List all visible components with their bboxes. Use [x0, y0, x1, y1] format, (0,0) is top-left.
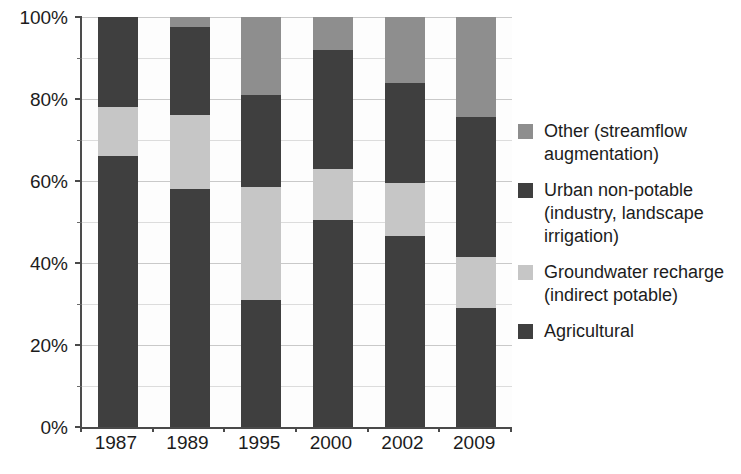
legend-swatch-icon	[518, 324, 533, 339]
bar-stack	[170, 17, 210, 427]
y-axis-tick-label: 100%	[19, 8, 68, 27]
bar-segment	[98, 17, 138, 107]
bar-stack	[98, 17, 138, 427]
bar-segment	[313, 50, 353, 169]
bar-stack	[241, 17, 281, 427]
bar-segment	[385, 83, 425, 183]
bar-segment	[313, 17, 353, 50]
bar-group-1987	[98, 17, 138, 427]
bar-segment	[456, 117, 496, 256]
bar-group-2009	[456, 17, 496, 427]
x-axis-tick-label: 2009	[453, 432, 495, 454]
legend-item-groundwater-recharge[interactable]: Groundwater recharge (indirect potable)	[518, 261, 738, 307]
bar-segment	[170, 115, 210, 189]
bar-segment	[241, 187, 281, 300]
bar-segment	[170, 189, 210, 427]
y-axis-tick-mark	[75, 16, 82, 18]
bar-segment	[385, 183, 425, 236]
y-axis-tick-label: 60%	[30, 172, 68, 191]
legend-item-other[interactable]: Other (streamflow augmentation)	[518, 120, 738, 166]
legend-item-urban-non-potable[interactable]: Urban non-potable (industry, landscape i…	[518, 179, 738, 248]
x-axis: 198719891995200020022009	[80, 432, 510, 462]
y-axis-tick-label: 0%	[41, 418, 68, 437]
bar-series-container	[82, 17, 512, 427]
plot-area	[80, 17, 512, 429]
legend-label: Agricultural	[544, 320, 634, 343]
x-axis-tick-label: 1987	[95, 432, 137, 454]
y-axis-tick-mark	[75, 180, 82, 182]
x-axis-tick-label: 2002	[381, 432, 423, 454]
y-axis: 0%20%40%60%80%100%	[0, 0, 76, 474]
bar-group-1995	[241, 17, 281, 427]
bar-segment	[170, 17, 210, 27]
y-axis-tick-mark	[75, 344, 82, 346]
legend-item-agricultural[interactable]: Agricultural	[518, 320, 738, 343]
bar-segment	[385, 236, 425, 427]
bar-segment	[385, 17, 425, 83]
x-axis-tick-label: 2000	[310, 432, 352, 454]
bar-segment	[456, 257, 496, 308]
y-axis-tick-mark	[75, 262, 82, 264]
bar-segment	[313, 169, 353, 220]
y-axis-ticks	[73, 17, 82, 427]
legend-swatch-icon	[518, 265, 533, 280]
bar-segment	[456, 17, 496, 117]
x-axis-tick-mark	[510, 427, 512, 432]
x-axis-tick-label: 1995	[238, 432, 280, 454]
x-axis-tick-label: 1989	[166, 432, 208, 454]
bar-segment	[241, 95, 281, 187]
bar-segment	[98, 156, 138, 427]
legend-label: Other (streamflow augmentation)	[544, 120, 687, 166]
bar-segment	[241, 17, 281, 95]
bar-group-1989	[170, 17, 210, 427]
y-axis-tick-mark	[75, 98, 82, 100]
legend-swatch-icon	[518, 183, 533, 198]
bar-segment	[313, 220, 353, 427]
bar-group-2002	[385, 17, 425, 427]
bar-group-2000	[313, 17, 353, 427]
legend-swatch-icon	[518, 124, 533, 139]
bar-segment	[98, 107, 138, 156]
bar-stack	[456, 17, 496, 427]
legend-label: Urban non-potable (industry, landscape i…	[544, 179, 704, 248]
y-axis-tick-label: 80%	[30, 90, 68, 109]
bar-segment	[170, 27, 210, 115]
bar-segment	[241, 300, 281, 427]
legend-label: Groundwater recharge (indirect potable)	[544, 261, 724, 307]
bar-segment	[456, 308, 496, 427]
stacked-bar-chart: 0%20%40%60%80%100% 198719891995200020022…	[0, 0, 741, 474]
chart-legend: Other (streamflow augmentation)Urban non…	[518, 120, 738, 356]
y-axis-tick-label: 40%	[30, 254, 68, 273]
bar-stack	[313, 17, 353, 427]
y-axis-tick-label: 20%	[30, 336, 68, 355]
bar-stack	[385, 17, 425, 427]
